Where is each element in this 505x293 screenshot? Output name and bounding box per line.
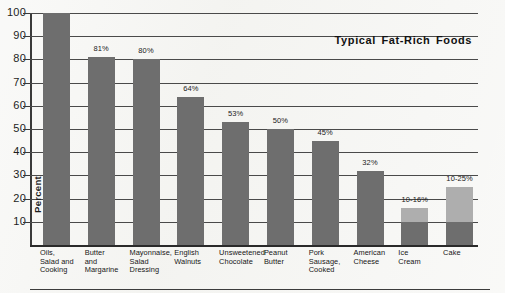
y-tick-mark <box>23 129 30 130</box>
category-label-line: Butter <box>264 258 313 267</box>
x-axis-line <box>30 245 478 247</box>
category-label: Oils,Salad andCooking <box>40 249 89 275</box>
bar <box>222 122 249 245</box>
bar-group: 81% <box>88 13 115 245</box>
bar <box>43 13 70 245</box>
y-tick-label: 40 <box>13 145 26 157</box>
y-axis-label: Percent <box>32 176 43 213</box>
bar <box>133 59 160 245</box>
y-tick-mark <box>23 152 30 153</box>
bar <box>267 129 294 245</box>
category-label-line: Dressing <box>130 266 179 275</box>
y-tick-mark <box>23 222 30 223</box>
bar-group: 10-16% <box>401 13 428 245</box>
bar-segment-range <box>446 187 473 222</box>
category-label: ButterandMargarine <box>85 249 134 275</box>
category-label-line: Cooking <box>40 266 89 275</box>
category-label-line: Cheese <box>354 258 403 267</box>
category-label: UnsweetenedChocolate <box>219 249 268 266</box>
category-label-line: Walnuts <box>174 258 223 267</box>
bar-chart: 100908070605040302010 81%80%64%53%50%45%… <box>30 13 478 245</box>
bar-value-label: 10-25% <box>446 174 472 183</box>
bar-value-label: 81% <box>94 44 109 53</box>
bar-segment-range <box>401 208 428 222</box>
bar <box>88 57 115 245</box>
category-label: Mayonnaise,SaladDressing <box>130 249 179 275</box>
bar-value-label: 50% <box>273 116 288 125</box>
chart-title: Typical Fat-Rich Foods <box>335 34 472 46</box>
y-tick-label: 20 <box>13 191 26 203</box>
bar-group: 80% <box>133 13 160 245</box>
category-label-line: Cream <box>398 258 447 267</box>
y-tick-label: 100 <box>7 6 26 18</box>
bar-group: 64% <box>177 13 204 245</box>
category-label-line: Chocolate <box>219 258 268 267</box>
bar-group: 32% <box>357 13 384 245</box>
bottom-rule <box>30 289 490 290</box>
bar <box>177 97 204 245</box>
y-tick-mark <box>23 175 30 176</box>
bar-value-label: 80% <box>138 46 153 55</box>
category-label: IceCream <box>398 249 447 266</box>
bar-value-label: 64% <box>183 84 198 93</box>
plot-area: 100908070605040302010 81%80%64%53%50%45%… <box>30 13 478 245</box>
y-tick-mark <box>23 199 30 200</box>
bar-group: 45% <box>312 13 339 245</box>
y-tick-mark <box>23 36 30 37</box>
y-tick-mark <box>23 83 30 84</box>
category-label: PeanutButter <box>264 249 313 266</box>
bar-group <box>43 13 70 245</box>
bar-value-label: 53% <box>228 109 243 118</box>
category-label-line: Cake <box>443 249 492 258</box>
bar <box>357 171 384 245</box>
bar-segment-low <box>446 222 473 245</box>
category-label-line: Cooked <box>309 266 358 275</box>
y-tick-label: 90 <box>13 29 26 41</box>
bar-segment-low <box>401 222 428 245</box>
bar-group: 53% <box>222 13 249 245</box>
y-tick-label: 80 <box>13 52 26 64</box>
category-label: Cake <box>443 249 492 258</box>
bar-value-label: 32% <box>362 158 377 167</box>
y-tick-mark <box>23 59 30 60</box>
y-tick-mark <box>23 106 30 107</box>
y-tick-mark <box>23 13 30 14</box>
page-background: 100908070605040302010 81%80%64%53%50%45%… <box>0 0 505 293</box>
category-label: AmericanCheese <box>354 249 403 266</box>
bar-value-label: 10-16% <box>402 195 428 204</box>
bar-value-label: 45% <box>318 128 333 137</box>
bar-group: 10-25% <box>446 13 473 245</box>
y-tick-label: 10 <box>13 215 26 227</box>
y-tick-label: 50 <box>13 122 26 134</box>
y-tick-label: 60 <box>13 99 26 111</box>
bar-group: 50% <box>267 13 294 245</box>
bar <box>312 141 339 245</box>
y-tick-label: 30 <box>13 168 26 180</box>
category-label-line: Margarine <box>85 266 134 275</box>
category-label: EnglishWalnuts <box>174 249 223 266</box>
y-tick-label: 70 <box>13 75 26 87</box>
category-label: PorkSausage,Cooked <box>309 249 358 275</box>
